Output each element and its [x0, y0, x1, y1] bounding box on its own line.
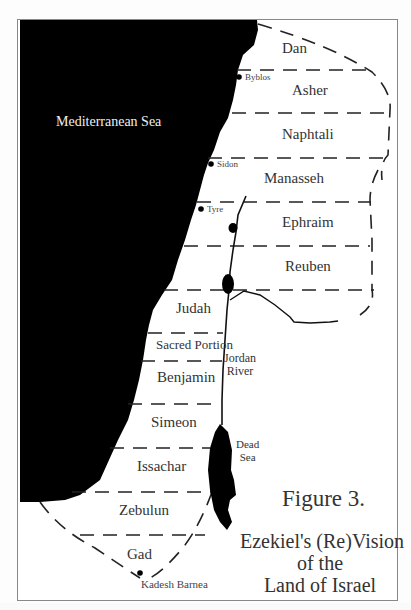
dead-sea-shape: [208, 424, 236, 530]
tribe-label-naphtali: Naphtali: [282, 126, 334, 143]
figure-number: Figure 3.: [282, 488, 365, 510]
tribe-label-ephraim: Ephraim: [282, 214, 334, 231]
tribe-label-benjamin: Benjamin: [157, 369, 215, 386]
figure-title: Ezekiel's (Re)Vision of the Land of Isra…: [240, 530, 400, 596]
tribe-label-manasseh: Manasseh: [264, 170, 324, 187]
jordan-river-label: Jordan River: [224, 352, 256, 378]
figure-title-line1: Ezekiel's (Re)Vision: [240, 530, 400, 552]
figure-title-line2: of the: [240, 552, 400, 574]
tribe-label-asher: Asher: [292, 82, 328, 99]
city-label-kadesh-barnea: Kadesh Barnea: [141, 578, 208, 590]
jordan-river-label-line2: River: [224, 365, 256, 378]
tribe-label-reuben: Reuben: [285, 258, 331, 275]
tribe-label-sacred-portion: Sacred Portion: [156, 337, 233, 353]
dead-sea-label-line1: Dead: [236, 438, 259, 451]
tribe-label-judah: Judah: [176, 300, 211, 317]
dead-sea-label-line2: Sea: [236, 451, 259, 464]
tribe-label-gad: Gad: [127, 546, 152, 563]
page-bottom-strip: [0, 603, 411, 610]
city-label-tyre: Tyre: [207, 204, 223, 214]
figure-title-line3: Land of Israel: [240, 574, 400, 596]
tribe-label-zebulun: Zebulun: [119, 502, 169, 519]
dead-sea-label: Dead Sea: [236, 438, 259, 464]
tribe-label-simeon: Simeon: [151, 414, 197, 431]
tribe-label-dan: Dan: [282, 40, 307, 57]
city-label-sidon: Sidon: [217, 159, 238, 169]
mediterranean-sea-label: Mediterranean Sea: [56, 114, 161, 130]
city-label-byblos: Byblos: [245, 72, 271, 82]
tribe-label-issachar: Issachar: [137, 458, 186, 475]
